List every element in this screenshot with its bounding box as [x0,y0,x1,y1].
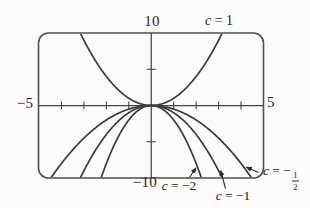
curve-label-c-neghalf-value: = − [269,163,291,178]
curve-label-c-neghalf-fraction: 12 [292,171,299,191]
curve-label-c-neg2: c = −2 [162,179,197,193]
parabola-family-figure: 10 −10 −5 5 c = 1 c = −2 c = −1 c = −12 [0,0,310,208]
arrow-c-neghalf-icon [247,167,259,172]
curve-label-c-neg1: c = −1 [216,189,251,203]
curve-label-c1: c = 1 [205,14,233,28]
fraction-numerator: 1 [292,171,299,182]
x-axis-right-label: 5 [267,95,275,110]
plot-area [39,27,264,185]
y-axis-top-label: 10 [144,14,160,29]
arrow-c-neg2-icon [190,168,196,178]
curve-label-c-neg1-value: = −1 [222,188,251,203]
curve-label-c-neghalf: c = −12 [263,164,299,191]
arrow-c-neg1-icon [221,171,226,189]
fraction-denominator: 2 [292,182,298,191]
curve-label-c-neg2-value: = −2 [168,178,197,193]
x-axis-left-label: −5 [17,96,34,111]
y-axis-bottom-label: −10 [133,175,157,190]
curve-label-c1-value: = 1 [211,13,233,28]
